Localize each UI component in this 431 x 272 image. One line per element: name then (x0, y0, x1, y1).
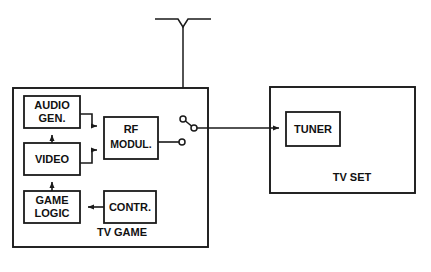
block-audio-gen-label-2: GEN. (39, 112, 66, 124)
block-video-label: VIDEO (35, 153, 70, 165)
enclosure-tv-set-label: TV SET (333, 171, 372, 183)
block-contr[interactable]: CONTR. (104, 191, 156, 223)
block-rf-modul-label-2: MODUL. (110, 138, 151, 150)
block-game-logic-label-2: LOGIC (35, 207, 70, 219)
block-contr-label: CONTR. (109, 201, 151, 213)
switch-contact-rf-icon[interactable] (179, 139, 185, 145)
block-game-logic[interactable]: GAME LOGIC (24, 191, 80, 223)
block-audio-gen[interactable]: AUDIO GEN. (24, 96, 80, 128)
enclosure-tv-game-label: TV GAME (97, 226, 147, 238)
block-diagram-svg: TV GAME TV SET AUDIO GEN. (0, 0, 431, 272)
switch-contact-antenna-icon[interactable] (180, 116, 186, 122)
diagram-canvas: TV GAME TV SET AUDIO GEN. (0, 0, 431, 272)
switch-pole-contact-icon[interactable] (191, 125, 197, 131)
block-rf-modul-label-1: RF (124, 123, 139, 135)
block-tuner[interactable]: TUNER (286, 112, 340, 146)
block-video[interactable]: VIDEO (24, 143, 80, 175)
block-audio-gen-label-1: AUDIO (34, 99, 70, 111)
block-game-logic-label-1: GAME (36, 194, 69, 206)
block-rf-modul[interactable]: RF MODUL. (104, 117, 158, 159)
block-tuner-label: TUNER (294, 123, 332, 135)
